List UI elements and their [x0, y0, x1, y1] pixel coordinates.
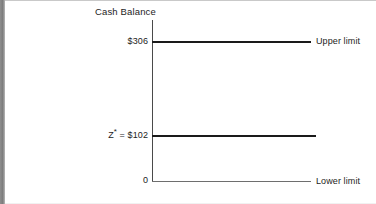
- upper-limit-label: Upper limit: [316, 36, 360, 46]
- upper-limit-line: [152, 41, 311, 43]
- y-tick-target-value: = $102: [117, 130, 148, 140]
- y-tick-zero: 0: [143, 175, 148, 185]
- plot-area: Cash Balance $306 Z* = $102 0 Upper limi…: [0, 0, 376, 204]
- y-axis-line: [152, 20, 153, 182]
- target-balance-line: [152, 135, 316, 137]
- lower-limit-label: Lower limit: [316, 176, 360, 186]
- cash-balance-figure: Cash Balance $306 Z* = $102 0 Upper limi…: [0, 0, 376, 204]
- y-tick-target-balance: Z* = $102: [108, 130, 148, 140]
- chart-title: Cash Balance: [95, 6, 156, 17]
- lower-limit-line: [152, 181, 311, 182]
- y-tick-upper-limit: $306: [128, 36, 148, 46]
